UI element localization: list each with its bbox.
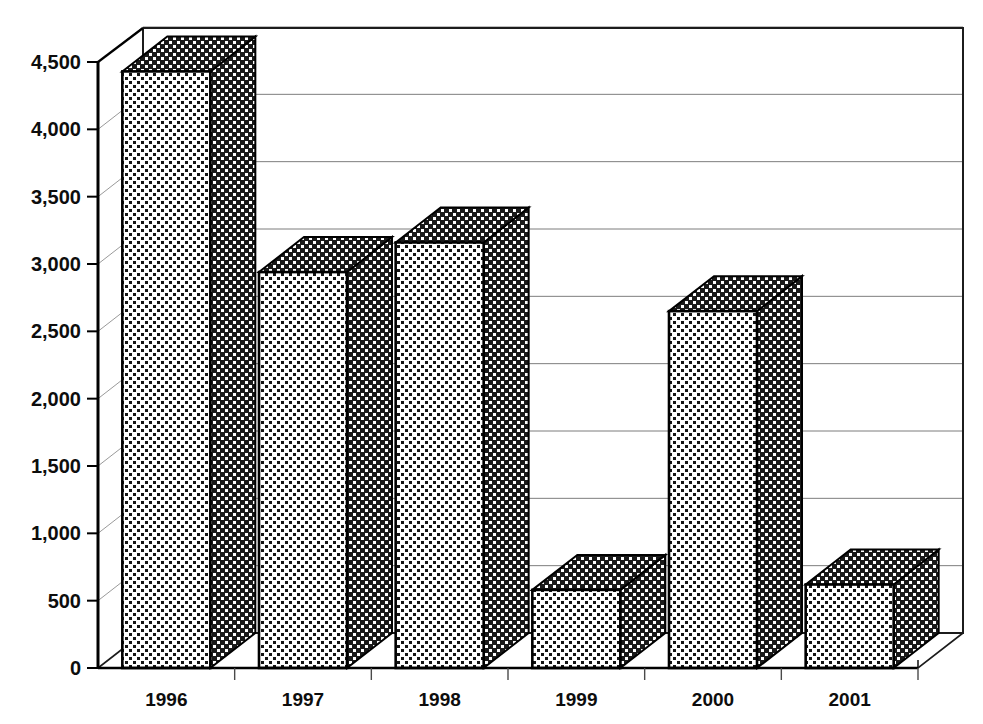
bar-column — [669, 276, 802, 668]
value-tick-label: 1,500 — [31, 455, 81, 477]
value-tick-label: 0 — [70, 657, 81, 679]
category-tick-label: 2000 — [692, 689, 734, 710]
bar-side-face — [347, 237, 392, 668]
bar-side-face — [484, 207, 529, 668]
value-tick-label: 2,000 — [31, 388, 81, 410]
bar-front-face — [259, 272, 347, 668]
bar-side-face — [757, 276, 802, 668]
value-tick-label: 500 — [48, 590, 81, 612]
bar-column — [259, 237, 392, 668]
bar-side-face — [210, 36, 255, 668]
category-tick-label: 1996 — [145, 689, 187, 710]
category-tick-label: 1998 — [419, 689, 461, 710]
value-tick-label: 4,500 — [31, 51, 81, 73]
value-tick-label: 2,500 — [31, 320, 81, 342]
category-tick-label: 1999 — [555, 689, 597, 710]
value-tick-label: 3,000 — [31, 253, 81, 275]
bar-front-face — [669, 311, 757, 668]
bar-front-face — [532, 590, 620, 668]
value-tick-label: 4,000 — [31, 118, 81, 140]
bar-front-face — [806, 585, 894, 668]
category-tick-label: 2001 — [829, 689, 872, 710]
category-tick-label: 1997 — [282, 689, 324, 710]
value-tick-marks — [87, 62, 98, 668]
bar-front-face — [122, 71, 210, 668]
bar-front-face — [396, 242, 484, 668]
bar-column — [396, 207, 529, 668]
value-tick-labels: 05001,0001,5002,0002,5003,0003,5004,0004… — [31, 51, 81, 679]
bar-chart-3d: 05001,0001,5002,0002,5003,0003,5004,0004… — [0, 0, 983, 724]
category-tick-marks — [235, 668, 918, 680]
value-tick-label: 3,500 — [31, 186, 81, 208]
category-tick-labels: 199619971998199920002001 — [145, 689, 871, 710]
value-tick-label: 1,000 — [31, 522, 81, 544]
bar-column — [122, 36, 255, 668]
chart-container: 05001,0001,5002,0002,5003,0003,5004,0004… — [0, 0, 983, 724]
